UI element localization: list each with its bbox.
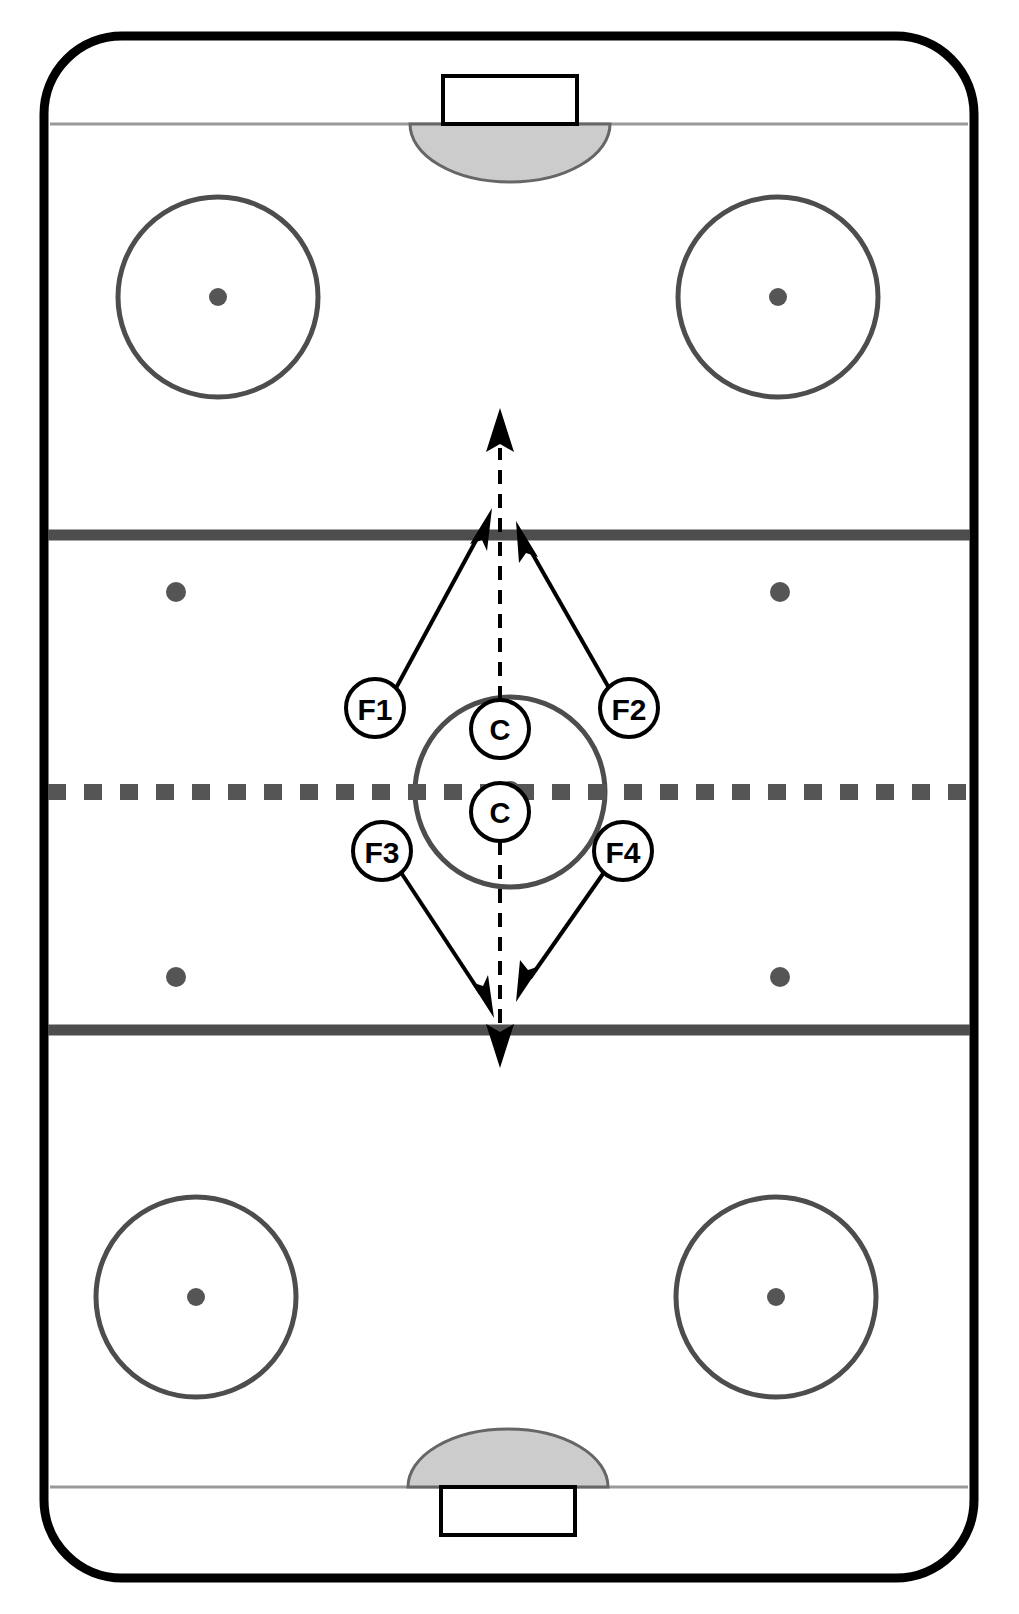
player-marker-c-bottom[interactable]: C — [471, 783, 529, 841]
goal-net-bottom — [441, 1487, 575, 1535]
player-marker-f4-label: F4 — [605, 836, 640, 869]
faceoff-dot-top-left — [209, 288, 227, 306]
neutral-dot-top-left — [166, 582, 186, 602]
player-marker-f2-label: F2 — [611, 693, 646, 726]
player-marker-f1[interactable]: F1 — [346, 679, 404, 737]
neutral-dot-bottom-right — [770, 967, 790, 987]
faceoff-dot-bottom-left — [187, 1288, 205, 1306]
player-marker-f2[interactable]: F2 — [600, 679, 658, 737]
rink-diagram-svg: F1 F2 F3 F4 C C — [0, 0, 1019, 1614]
player-marker-f4[interactable]: F4 — [594, 822, 652, 880]
player-marker-c-bottom-label: C — [490, 797, 511, 829]
goal-net-top — [443, 76, 577, 124]
neutral-dot-top-right — [770, 582, 790, 602]
player-marker-c-top[interactable]: C — [471, 700, 529, 758]
neutral-dot-bottom-left — [166, 967, 186, 987]
player-marker-f1-label: F1 — [357, 693, 392, 726]
rink-diagram-page: F1 F2 F3 F4 C C — [0, 0, 1019, 1614]
player-marker-c-top-label: C — [490, 714, 511, 746]
faceoff-dot-bottom-right — [767, 1288, 785, 1306]
player-marker-f3-label: F3 — [364, 836, 399, 869]
player-marker-f3[interactable]: F3 — [353, 822, 411, 880]
faceoff-dot-top-right — [769, 288, 787, 306]
